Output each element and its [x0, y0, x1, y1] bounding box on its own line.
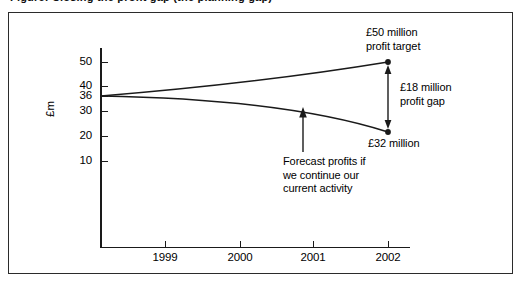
data-point-forecast: [385, 129, 391, 135]
chart-plot-area: [0, 0, 521, 285]
annotation-profit-gap-line1: £18 million: [400, 81, 451, 95]
annotation-forecast-callout-line2: we continue our: [283, 169, 365, 183]
annotation-forecast-callout-line3: current activity: [283, 182, 365, 196]
annotation-profit-gap: £18 million profit gap: [400, 81, 451, 108]
data-point-profit-target: [385, 59, 391, 65]
annotation-profit-target-line2: profit target: [366, 40, 420, 54]
annotation-forecast-callout: Forecast profits if we continue our curr…: [283, 155, 365, 196]
profit-gap-arrowhead-up: [385, 65, 392, 74]
profit-gap-arrowhead-down: [385, 120, 392, 129]
annotation-profit-target: £50 million profit target: [366, 26, 420, 53]
series-line-profit-target: [101, 62, 388, 96]
annotation-forecast-callout-line1: Forecast profits if: [283, 155, 365, 169]
series-line-forecast: [101, 96, 388, 132]
annotation-profit-target-line1: £50 million: [366, 26, 420, 40]
annotation-forecast-end-line1: £32 million: [368, 137, 419, 151]
annotation-profit-gap-line2: profit gap: [400, 95, 451, 109]
annotation-forecast-end: £32 million: [368, 137, 419, 151]
